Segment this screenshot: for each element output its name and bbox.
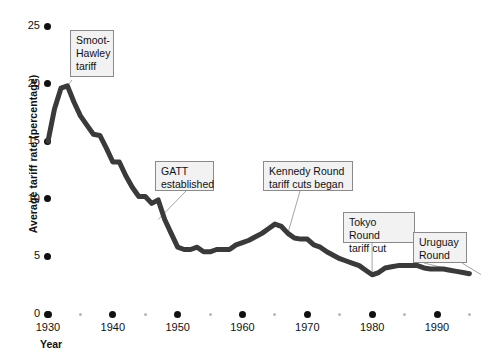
annotation-smoot-hawley: Smoot- Hawley tariff bbox=[70, 30, 114, 77]
annotation-uruguay-round-line1: Uruguay bbox=[419, 236, 462, 249]
annotation-tokyo-round-line2: tariff cut bbox=[349, 242, 410, 255]
annotation-uruguay-round-line2: Round bbox=[419, 249, 462, 262]
annotation-smoot-hawley-line3: tariff bbox=[76, 60, 109, 73]
leader-line-kennedy-round bbox=[288, 191, 300, 233]
annotation-tokyo-round: Tokyo Round tariff cut bbox=[343, 212, 415, 243]
annotation-gatt-line1: GATT bbox=[161, 165, 209, 178]
annotation-gatt: GATT established bbox=[155, 161, 214, 191]
annotation-kennedy-round-line1: Kennedy Round bbox=[269, 165, 348, 178]
annotation-gatt-line2: established bbox=[161, 178, 209, 191]
annotation-kennedy-round-line2: tariff cuts began bbox=[269, 178, 348, 191]
annotation-smoot-hawley-line2: Hawley bbox=[76, 47, 109, 60]
annotation-tokyo-round-line1: Tokyo Round bbox=[349, 216, 410, 242]
annotation-smoot-hawley-line1: Smoot- bbox=[76, 34, 109, 47]
chart-figure: Average tariff rate (percentage) 0510152… bbox=[0, 0, 484, 361]
annotation-uruguay-round: Uruguay Round bbox=[413, 232, 467, 263]
annotation-kennedy-round: Kennedy Round tariff cuts began bbox=[263, 161, 353, 191]
